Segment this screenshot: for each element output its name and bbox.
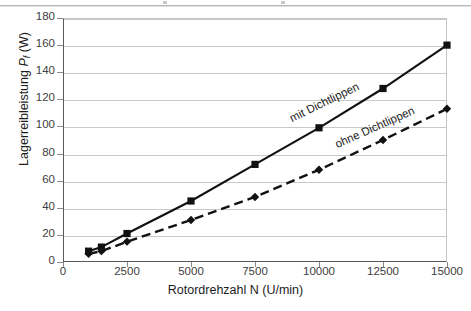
scan-speck-right (281, 1, 285, 4)
x-tick-mark (127, 262, 128, 267)
gridline (64, 19, 446, 20)
chart-container: Lagerreibleistung Pf (W) Rotordrehzahl N… (0, 0, 471, 311)
x-tick-mark (383, 262, 384, 267)
x-tick-mark (319, 262, 320, 267)
y-tick-label: 180 (0, 10, 55, 22)
scan-speck-left (163, 1, 167, 4)
gridline (64, 236, 446, 237)
gridline (64, 46, 446, 47)
gridline (64, 209, 446, 210)
y-tick-label: 80 (0, 146, 55, 158)
x-tick-label: 15000 (412, 265, 471, 277)
x-axis-label: Rotordrehzahl N (U/min) (0, 283, 471, 297)
y-tick-label: 20 (0, 227, 55, 239)
y-tick-label: 40 (0, 200, 55, 212)
gridline (64, 155, 446, 156)
y-tick-label: 160 (0, 37, 55, 49)
gridline (64, 127, 446, 128)
y-axis-label-subscript: f (22, 56, 32, 59)
y-tick-label: 140 (0, 64, 55, 76)
scan-artifact-line-2 (0, 6, 471, 7)
x-tick-mark (63, 262, 64, 267)
plot-area (63, 18, 447, 262)
y-tick-label: 100 (0, 118, 55, 130)
x-tick-mark (255, 262, 256, 267)
y-tick-label: 60 (0, 173, 55, 185)
y-tick-label: 120 (0, 91, 55, 103)
gridline (64, 182, 446, 183)
gridline (64, 100, 446, 101)
x-tick-mark (447, 262, 448, 267)
gridline (64, 73, 446, 74)
x-tick-mark (191, 262, 192, 267)
